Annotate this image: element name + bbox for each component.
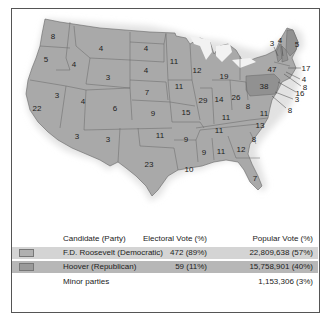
electoral-vote: 472 (89%)	[170, 248, 207, 257]
state-electoral-label: 8	[246, 102, 250, 111]
state-electoral-label: 8	[252, 135, 256, 144]
state-electoral-label: 6	[113, 104, 117, 113]
header-popular: Popular Vote (%)	[253, 234, 313, 243]
state-electoral-label: 11	[156, 131, 164, 140]
state-electoral-label: 14	[215, 95, 224, 104]
state-electoral-label: 3	[75, 132, 79, 141]
candidate-name: F.D. Roosevelt (Democratic)	[63, 248, 163, 257]
popular-vote: 1,153,306 (3%)	[258, 277, 313, 286]
state-electoral-label: 4	[278, 36, 282, 45]
legend-row-hoover: Hoover (Republican) 59 (11%) 15,758,901 …	[12, 261, 318, 273]
state-electoral-label: 11	[170, 57, 178, 66]
state-electoral-label: 47	[268, 65, 277, 74]
state-electoral-label: 3	[295, 95, 299, 104]
state-electoral-label: 8	[288, 106, 292, 115]
state-electoral-label: 9	[184, 135, 188, 144]
state-electoral-label: 4	[81, 97, 85, 106]
header-electoral: Electoral Vote (%)	[143, 234, 207, 243]
state-electoral-label: 38	[260, 82, 269, 91]
legend-row-roosevelt: F.D. Roosevelt (Democratic) 472 (89%) 22…	[12, 247, 318, 259]
state-electoral-label: 11	[215, 126, 223, 135]
state-electoral-label: 11	[260, 109, 268, 118]
popular-vote: 15,758,901 (40%)	[249, 262, 313, 271]
state-electoral-label: 5	[295, 40, 299, 49]
hoover-swatch	[19, 263, 34, 271]
state-electoral-label: 12	[193, 66, 202, 75]
state-electoral-label: 5	[44, 55, 48, 64]
us-map	[0, 0, 327, 230]
legend-row-minor: Minor parties 1,153,306 (3%)	[12, 276, 318, 288]
state-electoral-label: 3	[270, 39, 274, 48]
legend-header: Candidate (Party) Electoral Vote (%) Pop…	[12, 233, 318, 245]
state-electoral-label: 23	[145, 160, 154, 169]
state-electoral-label: 9	[151, 109, 155, 118]
state-electoral-label: 17	[302, 64, 311, 73]
state-electoral-label: 11	[175, 82, 183, 91]
state-electoral-label: 10	[185, 165, 194, 174]
state-electoral-label: 3	[55, 91, 59, 100]
state-electoral-label: 11	[217, 147, 225, 156]
electoral-vote: 59 (11%)	[175, 262, 207, 271]
state-electoral-label: 3	[106, 73, 110, 82]
state-electoral-label: 7	[253, 174, 257, 183]
state-electoral-label: 4	[99, 44, 103, 53]
candidate-name: Hoover (Republican)	[63, 262, 136, 271]
state-electoral-label: 11	[222, 113, 230, 122]
state-electoral-label: 3	[106, 135, 110, 144]
state-electoral-label: 13	[256, 121, 265, 130]
header-candidate: Candidate (Party)	[63, 234, 126, 243]
candidate-name: Minor parties	[63, 277, 109, 286]
state-electoral-label: 26	[232, 93, 241, 102]
state-electoral-label: 7	[145, 88, 149, 97]
state-electoral-label: 4	[72, 60, 76, 69]
state-electoral-label: 19	[220, 72, 229, 81]
state-electoral-label: 9	[202, 148, 206, 157]
state-electoral-label: 12	[237, 145, 246, 154]
state-electoral-label: 8	[51, 32, 55, 41]
roosevelt-swatch	[19, 249, 34, 257]
popular-vote: 22,809,638 (57%)	[249, 248, 313, 257]
state-electoral-label: 22	[33, 104, 42, 113]
state-electoral-label: 29	[199, 96, 208, 105]
state-electoral-label: 4	[144, 44, 148, 53]
state-electoral-label: 15	[182, 108, 191, 117]
state-electoral-label: 4	[144, 66, 148, 75]
